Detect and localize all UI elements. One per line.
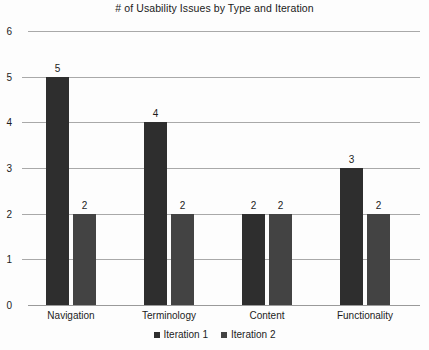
chart-title: # of Usability Issues by Type and Iterat… xyxy=(0,2,429,14)
bar[interactable] xyxy=(46,77,69,305)
bar-slot: 2 xyxy=(367,31,390,305)
bar-group: 42 xyxy=(126,31,224,305)
y-axis-tick-label: 4 xyxy=(0,117,12,128)
bar-value-label: 2 xyxy=(82,200,88,211)
x-axis-category-label: Functionality xyxy=(337,310,393,321)
chart-legend: Iteration 1Iteration 2 xyxy=(0,329,429,340)
plot-area: 52422232 xyxy=(28,31,420,305)
bar-value-label: 5 xyxy=(55,63,61,74)
legend-label: Iteration 1 xyxy=(164,329,208,340)
bar-value-label: 4 xyxy=(153,108,159,119)
bar[interactable] xyxy=(242,214,265,305)
x-axis-category-label: Content xyxy=(249,310,284,321)
bar[interactable] xyxy=(171,214,194,305)
legend-entry[interactable]: Iteration 1 xyxy=(154,329,208,340)
y-axis-tick-label: 0 xyxy=(0,300,12,311)
bar-slot: 4 xyxy=(144,31,167,305)
bar-slot: 2 xyxy=(242,31,265,305)
bar-value-label: 2 xyxy=(278,200,284,211)
y-axis-tick-label: 5 xyxy=(0,71,12,82)
bar-slot: 3 xyxy=(340,31,363,305)
bar[interactable] xyxy=(367,214,390,305)
usability-issues-bar-chart: # of Usability Issues by Type and Iterat… xyxy=(0,0,429,350)
bar-slot: 2 xyxy=(171,31,194,305)
bar-value-label: 2 xyxy=(251,200,257,211)
bar-value-label: 2 xyxy=(376,200,382,211)
bar-value-label: 2 xyxy=(180,200,186,211)
y-axis-tick-label: 6 xyxy=(0,26,12,37)
bar[interactable] xyxy=(144,122,167,305)
bar-slot: 2 xyxy=(269,31,292,305)
bar[interactable] xyxy=(340,168,363,305)
y-axis-tick-label: 2 xyxy=(0,208,12,219)
y-axis-tick-label: 1 xyxy=(0,254,12,265)
legend-swatch-icon xyxy=(154,332,160,338)
bar-value-label: 3 xyxy=(349,154,355,165)
gridline xyxy=(28,305,420,306)
x-axis-category-label: Navigation xyxy=(47,310,94,321)
legend-label: Iteration 2 xyxy=(231,329,275,340)
legend-swatch-icon xyxy=(221,332,227,338)
y-axis-tick-label: 3 xyxy=(0,163,12,174)
bar-group: 52 xyxy=(28,31,126,305)
bar-slot: 5 xyxy=(46,31,69,305)
x-axis-category-label: Terminology xyxy=(142,310,196,321)
bar[interactable] xyxy=(73,214,96,305)
bar-slot: 2 xyxy=(73,31,96,305)
legend-entry[interactable]: Iteration 2 xyxy=(221,329,275,340)
bar[interactable] xyxy=(269,214,292,305)
bar-group: 22 xyxy=(224,31,322,305)
bar-group: 32 xyxy=(322,31,420,305)
